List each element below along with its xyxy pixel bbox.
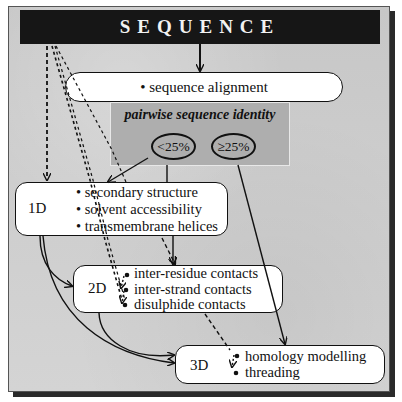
list-item: disulphide contacts xyxy=(134,297,258,313)
level-3d-items: homology modelling threading xyxy=(245,349,366,380)
level-1d-box: 1D • secondary structure • solvent acces… xyxy=(15,182,228,236)
high-identity-node: ≥25% xyxy=(211,133,256,160)
level-2d-box: 2D inter-residue contacts inter-strand c… xyxy=(73,265,283,313)
pairwise-identity-panel: pairwise sequence identity <25% ≥25% xyxy=(110,102,290,166)
sequence-title-bar: SEQUENCE xyxy=(20,10,380,44)
level-3d-label: 3D xyxy=(190,357,208,374)
list-item: inter-strand contacts xyxy=(134,282,258,298)
list-item: homology modelling xyxy=(245,349,366,365)
high-identity-label: ≥25% xyxy=(217,139,249,155)
list-item: • solvent accessibility xyxy=(76,201,218,218)
level-3d-box: 3D homology modelling threading xyxy=(175,345,385,384)
level-1d-label: 1D xyxy=(28,200,46,217)
sequence-alignment-label: • sequence alignment xyxy=(140,79,268,96)
pairwise-identity-title: pairwise sequence identity xyxy=(111,107,289,123)
list-item: • secondary structure xyxy=(76,184,218,201)
sequence-alignment-box: • sequence alignment xyxy=(65,72,343,102)
level-1d-items: • secondary structure • solvent accessib… xyxy=(76,184,218,235)
level-2d-items: inter-residue contacts inter-strand cont… xyxy=(134,266,258,313)
sequence-title: SEQUENCE xyxy=(120,16,281,38)
low-identity-node: <25% xyxy=(151,133,196,160)
level-2d-label: 2D xyxy=(88,280,106,297)
list-item: • transmembrane helices xyxy=(76,218,218,235)
list-item: inter-residue contacts xyxy=(134,266,258,282)
low-identity-label: <25% xyxy=(157,139,189,155)
list-item: threading xyxy=(245,365,366,381)
